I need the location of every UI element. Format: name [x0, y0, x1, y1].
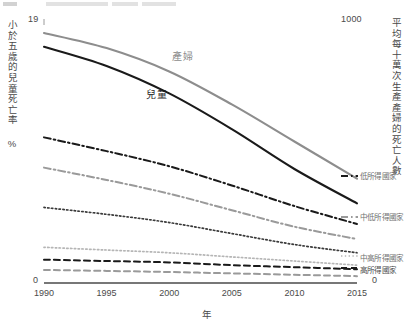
series-layer	[44, 33, 358, 276]
series-line-7	[44, 270, 357, 276]
series-line-5	[44, 247, 357, 265]
plot-area	[0, 0, 413, 326]
series-line-6	[44, 260, 357, 270]
series-line-1	[44, 47, 357, 204]
series-line-0	[44, 33, 357, 179]
chart-container: 19 0 1000 0 小於五歲的兒童死亡率 % 平均每十萬次生產產婦的死亡人數…	[0, 0, 413, 326]
